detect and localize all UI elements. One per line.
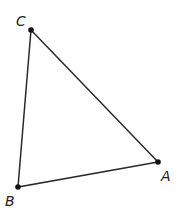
triangle-abc [18,30,158,187]
label-b: B [5,193,15,209]
vertex-c-point [28,27,34,33]
label-a: A [160,168,171,184]
vertex-a-point [155,159,161,165]
vertex-b-point [15,184,21,190]
triangle-diagram: C A B [0,0,180,213]
label-c: C [16,13,26,29]
